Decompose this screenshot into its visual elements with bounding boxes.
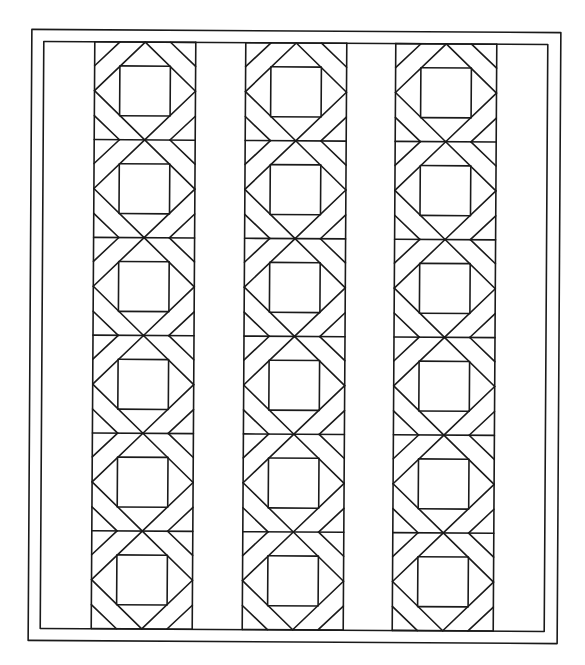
- quilt-block: [244, 238, 346, 336]
- corner-band: [469, 435, 494, 459]
- corner-band: [471, 142, 496, 166]
- corner-band: [395, 215, 420, 239]
- corner-band: [471, 118, 496, 142]
- center-square: [268, 556, 319, 606]
- corner-band: [319, 434, 344, 458]
- quilt-block: [393, 337, 495, 435]
- center-square: [421, 68, 472, 118]
- corner-band: [168, 409, 193, 433]
- strip-3: [392, 44, 497, 631]
- corner-band: [395, 117, 420, 141]
- center-square: [118, 359, 169, 409]
- corner-band: [321, 43, 346, 67]
- center-square: [117, 457, 168, 507]
- corner-band: [168, 433, 193, 457]
- corner-band: [468, 533, 493, 557]
- corner-band: [393, 533, 418, 557]
- corner-band: [470, 216, 495, 240]
- center-square: [419, 263, 470, 313]
- corner-band: [245, 140, 270, 164]
- corner-band: [320, 239, 345, 263]
- corner-band: [93, 335, 118, 359]
- corner-band: [92, 409, 117, 433]
- quilt-block: [243, 434, 345, 532]
- corner-band: [393, 435, 418, 459]
- corner-band: [394, 313, 419, 337]
- strip-2: [242, 43, 347, 630]
- corner-band: [395, 141, 420, 165]
- corner-band: [470, 240, 495, 264]
- corner-band: [394, 337, 419, 361]
- corner-band: [243, 434, 268, 458]
- corner-band: [245, 117, 270, 141]
- quilt-block: [393, 435, 495, 533]
- quilt-block: [395, 141, 497, 239]
- quilt-block: [394, 239, 496, 337]
- corner-band: [91, 605, 116, 629]
- center-square: [418, 459, 469, 509]
- corner-band: [318, 606, 343, 630]
- quilt-block: [243, 336, 345, 434]
- corner-band: [95, 42, 120, 66]
- corner-band: [394, 239, 419, 263]
- center-square: [120, 66, 171, 116]
- quilt-block: [93, 237, 195, 335]
- corner-band: [319, 410, 344, 434]
- corner-band: [170, 116, 195, 140]
- corner-band: [169, 312, 194, 336]
- corner-band: [470, 314, 495, 338]
- corner-band: [92, 433, 117, 457]
- corner-band: [169, 214, 194, 238]
- quilt-block: [395, 44, 497, 142]
- corner-band: [320, 313, 345, 337]
- corner-band: [246, 43, 271, 67]
- corner-band: [471, 44, 496, 68]
- corner-band: [94, 140, 119, 164]
- center-square: [118, 261, 169, 311]
- corner-band: [320, 337, 345, 361]
- quilt-block: [242, 532, 344, 630]
- corner-band: [169, 336, 194, 360]
- corner-band: [396, 44, 421, 68]
- center-square: [269, 262, 320, 312]
- center-square: [271, 67, 322, 117]
- corner-band: [470, 337, 495, 361]
- corner-band: [167, 605, 192, 629]
- corner-band: [170, 42, 195, 66]
- corner-band: [468, 607, 493, 631]
- corner-band: [245, 214, 270, 238]
- pieced-strips: [91, 42, 497, 631]
- quilt-block: [91, 531, 193, 629]
- quilt-block: [94, 140, 196, 238]
- corner-band: [94, 116, 119, 140]
- corner-band: [392, 606, 417, 630]
- center-square: [418, 557, 469, 607]
- corner-band: [167, 531, 192, 555]
- corner-band: [243, 410, 268, 434]
- corner-band: [244, 312, 269, 336]
- center-square: [419, 361, 470, 411]
- corner-band: [93, 237, 118, 261]
- corner-band: [321, 141, 346, 165]
- quilt-block: [94, 42, 196, 140]
- center-square: [119, 164, 170, 214]
- corner-band: [244, 336, 269, 360]
- corner-band: [319, 508, 344, 532]
- corner-band: [168, 507, 193, 531]
- quilt-block: [245, 43, 347, 141]
- center-square: [269, 360, 320, 410]
- corner-band: [393, 509, 418, 533]
- quilt-block: [392, 533, 494, 631]
- corner-band: [393, 411, 418, 435]
- quilt-block: [245, 140, 347, 238]
- quilt-body: [28, 29, 561, 643]
- corner-band: [243, 532, 268, 556]
- center-square: [270, 165, 321, 215]
- corner-band: [242, 606, 267, 630]
- corner-band: [318, 532, 343, 556]
- strip-1: [91, 42, 196, 629]
- center-square: [420, 166, 471, 216]
- corner-band: [92, 531, 117, 555]
- corner-band: [244, 238, 269, 262]
- corner-band: [92, 507, 117, 531]
